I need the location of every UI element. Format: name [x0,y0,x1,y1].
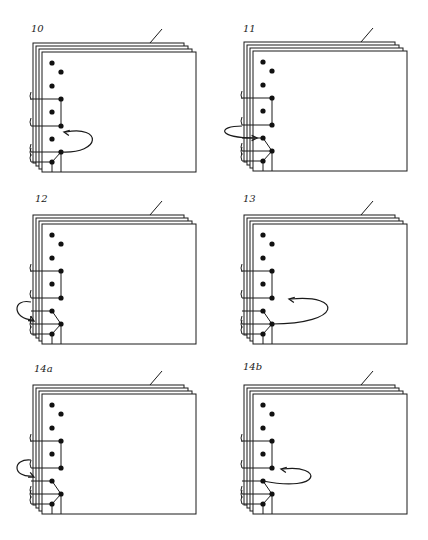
front-sheet [253,51,407,171]
hole-dot [269,295,274,300]
hole-dot [49,451,54,456]
panel-10 [30,29,196,172]
hole-dot [269,241,274,246]
hole-dot [269,491,274,496]
spine-wrap [30,460,31,468]
front-sheet [253,224,407,344]
spine-wrap [30,92,31,100]
panel-11 [225,28,407,171]
hole-dot [49,308,54,313]
spine-wrap [30,118,31,126]
hole-dot [58,491,63,496]
hole-dot [58,241,63,246]
hole-dot [49,425,54,430]
spine-wrap [241,326,242,334]
spine-wrap [30,326,31,334]
diagram-canvas [0,0,428,540]
hole-dot [269,268,274,273]
spine-wrap [241,460,242,468]
hole-dot [269,95,274,100]
hole-dot [260,135,265,140]
hole-dot [58,438,63,443]
front-sheet [253,394,407,514]
hole-dot [49,83,54,88]
hole-dot [58,268,63,273]
hole-dot [58,465,63,470]
front-sheet [42,394,196,514]
spine-wrap [30,290,31,298]
stitching-diagram: 10 11 12 13 14a 14b [0,0,428,540]
hole-dot [269,438,274,443]
spine-wrap [30,154,31,162]
hole-dot [49,478,54,483]
hole-dot [269,68,274,73]
hole-dot [49,281,54,286]
hole-dot [49,109,54,114]
hole-dot [58,123,63,128]
hole-dot [49,255,54,260]
panel-12 [17,201,196,344]
hole-dot [49,402,54,407]
hole-dot [260,451,265,456]
hole-dot [260,281,265,286]
hole-dot [269,465,274,470]
hole-dot [260,331,265,336]
panel-14b [241,371,407,514]
hole-dot [58,96,63,101]
hole-dot [260,82,265,87]
front-sheet [42,224,196,344]
hole-dot [260,232,265,237]
spine-wrap [241,496,242,504]
spine-wrap [241,264,242,272]
hole-dot [260,501,265,506]
hole-dot [58,321,63,326]
hole-dot [49,331,54,336]
spine-wrap [241,153,242,161]
hole-dot [269,148,274,153]
hole-dot [269,122,274,127]
hole-dot [49,60,54,65]
hole-dot [260,158,265,163]
hole-dot [269,411,274,416]
spine-wrap [30,264,31,272]
tick-mark [150,371,162,385]
spine-wrap [241,91,242,99]
spine-wrap [30,434,31,442]
hole-dot [49,136,54,141]
tick-mark [150,29,162,43]
panel-14a [17,371,196,514]
front-sheet [42,52,196,172]
hole-dot [260,308,265,313]
hole-dot [58,69,63,74]
spine-wrap [241,434,242,442]
panel-13 [241,201,407,344]
tick-mark [361,28,373,42]
hole-dot [260,59,265,64]
tick-mark [150,201,162,215]
tick-mark [361,371,373,385]
hole-dot [260,108,265,113]
spine-wrap [241,290,242,298]
hole-dot [260,255,265,260]
hole-dot [49,232,54,237]
tick-mark [361,201,373,215]
hole-dot [58,295,63,300]
hole-dot [49,159,54,164]
hole-dot [260,425,265,430]
hole-dot [58,411,63,416]
hole-dot [260,402,265,407]
spine-wrap [241,117,242,125]
spine-wrap [30,496,31,504]
hole-dot [49,501,54,506]
